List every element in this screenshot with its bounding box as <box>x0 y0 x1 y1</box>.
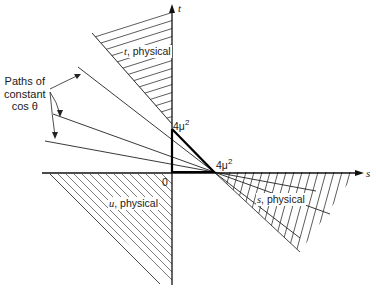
annotation-line-1: Paths of <box>4 75 46 88</box>
t-physical-region <box>60 10 180 160</box>
u-region-boundary <box>50 174 160 284</box>
s-threshold-base: 4μ <box>216 159 228 171</box>
t-axis-arrow-icon <box>169 4 175 13</box>
t-threshold-exp: 2 <box>185 118 189 127</box>
t-physical-text: , physical <box>127 45 171 57</box>
paths-annotation: Paths of constant cos θ <box>4 75 46 113</box>
annotation-arrows <box>50 74 81 139</box>
t-axis-label: t <box>178 2 181 14</box>
s-threshold-label: 4μ2 <box>216 156 232 171</box>
axes <box>42 4 364 285</box>
t-threshold-base: 4μ <box>173 120 185 132</box>
s-axis-label: s <box>366 167 370 179</box>
s-physical-text: , physical <box>261 193 305 205</box>
origin-label: 0 <box>162 176 168 188</box>
t-physical-label: t, physical <box>123 45 172 58</box>
s-region-boundary <box>214 172 300 252</box>
s-physical-label: s, physical <box>256 193 306 206</box>
s-threshold-exp: 2 <box>228 157 232 166</box>
s-axis-arrow-icon <box>355 170 364 176</box>
u-physical-label: u, physical <box>108 197 159 210</box>
u-physical-text: , physical <box>114 197 158 209</box>
annotation-line-3: cos θ <box>4 100 46 113</box>
t-threshold-label: 4μ2 <box>173 117 189 132</box>
annotation-line-2: constant <box>4 88 46 101</box>
mandelstam-diagram <box>0 0 376 293</box>
